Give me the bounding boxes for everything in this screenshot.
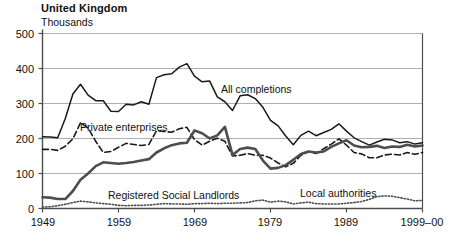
- y-tick-label: 200: [4, 133, 34, 145]
- x-tick-label: 1999–00: [392, 216, 452, 228]
- y-tick-label: 0: [4, 203, 34, 215]
- x-tick-label: 1979: [240, 216, 300, 228]
- series-annotation: Local authorities: [300, 187, 376, 199]
- y-tick-label: 100: [4, 168, 34, 180]
- chart-container: United Kingdom Thousands 500400300200100…: [0, 0, 456, 242]
- x-tick-label: 1959: [89, 216, 149, 228]
- axes-group: [43, 30, 423, 209]
- y-tick-label: 500: [4, 28, 34, 40]
- x-tick-label: 1949: [13, 216, 73, 228]
- series-annotation: All completions: [221, 83, 292, 95]
- series-annotation: Private enterprises: [80, 121, 168, 133]
- series-annotation: Registered Social Landlords: [108, 189, 239, 201]
- chart-plot-area: [0, 0, 456, 242]
- x-tick-label: 1969: [165, 216, 225, 228]
- x-tick-label: 1989: [316, 216, 376, 228]
- y-tick-label: 400: [4, 63, 34, 75]
- y-tick-label: 300: [4, 98, 34, 110]
